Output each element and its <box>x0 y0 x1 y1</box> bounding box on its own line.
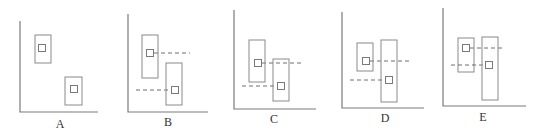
center-marker-icon <box>71 86 78 93</box>
center-marker-icon <box>386 77 393 84</box>
axes <box>443 8 526 106</box>
center-marker-icon <box>463 45 470 52</box>
panel-b: B <box>128 14 208 129</box>
panel-label: C <box>270 112 278 126</box>
axes <box>342 12 424 108</box>
center-marker-icon <box>255 60 262 67</box>
panel-label: E <box>479 110 486 124</box>
center-marker-icon <box>363 58 370 65</box>
axes <box>20 21 98 112</box>
center-marker-icon <box>39 45 46 52</box>
center-marker-icon <box>486 62 493 69</box>
center-marker-icon <box>147 50 154 57</box>
panel-label: D <box>381 111 390 125</box>
range-box <box>166 63 182 105</box>
comparison-diagram: ABCDE <box>0 0 538 135</box>
panel-d: D <box>342 12 424 125</box>
panel-label: A <box>56 117 65 131</box>
center-marker-icon <box>172 87 179 94</box>
panel-e: E <box>443 8 526 124</box>
range-box <box>273 59 289 101</box>
range-box <box>458 38 474 72</box>
panel-a: A <box>20 21 98 131</box>
center-marker-icon <box>278 83 285 90</box>
panel-label: B <box>164 115 172 129</box>
range-box <box>381 40 397 102</box>
panel-c: C <box>234 10 316 126</box>
